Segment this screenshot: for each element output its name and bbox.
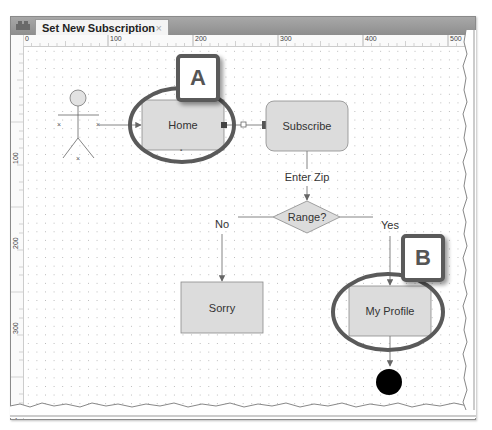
node-range-label: Range? — [288, 211, 327, 223]
node-home[interactable]: Home ▪ — [142, 100, 227, 153]
node-my-profile[interactable]: My Profile — [349, 286, 431, 336]
node-sorry[interactable]: Sorry — [181, 282, 263, 333]
svg-text:×: × — [57, 121, 61, 128]
actor-stick-figure-icon[interactable]: × × × — [57, 90, 100, 162]
flow-diagram: × × × Home ▪ Subscribe Enter Zip Range? … — [0, 0, 492, 430]
svg-text:×: × — [96, 121, 100, 128]
selection-handle[interactable] — [221, 122, 227, 128]
edge-label-no: No — [215, 218, 229, 230]
callout-b: B — [401, 234, 445, 282]
node-my-profile-label: My Profile — [366, 305, 415, 317]
node-subscribe[interactable]: Subscribe — [266, 101, 348, 151]
callout-a: A — [176, 54, 220, 102]
torn-edge-right — [462, 30, 476, 410]
node-sorry-label: Sorry — [209, 302, 236, 314]
edge-label-enter-zip: Enter Zip — [285, 171, 330, 183]
torn-edge-bottom — [10, 402, 476, 418]
node-home-label: Home — [168, 119, 197, 131]
node-range-decision[interactable]: Range? — [273, 201, 340, 233]
node-subscribe-label: Subscribe — [283, 120, 332, 132]
svg-text:▪: ▪ — [180, 147, 182, 153]
edge-range-sorry[interactable] — [222, 217, 273, 281]
svg-text:×: × — [76, 155, 80, 162]
final-state-icon[interactable] — [376, 369, 402, 395]
edge-label-yes: Yes — [381, 219, 399, 231]
